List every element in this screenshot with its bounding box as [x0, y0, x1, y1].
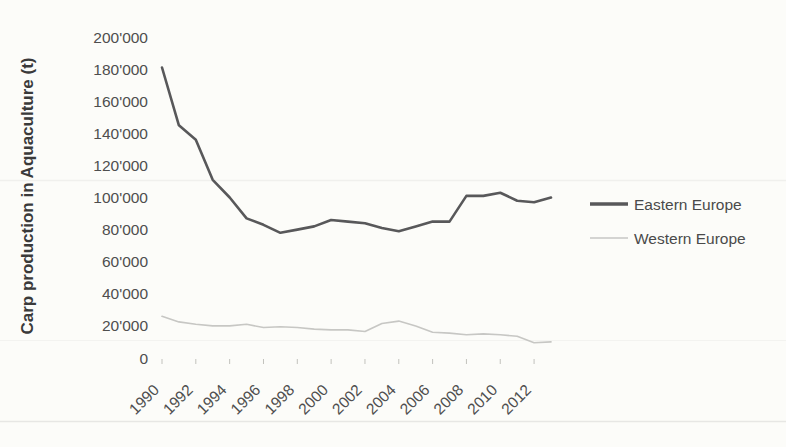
y-axis-tick-label: 40'000	[102, 285, 148, 302]
y-axis-tick-label: 80'000	[102, 221, 148, 238]
y-axis-title: Carp production in Aquaculture (t)	[18, 57, 37, 334]
y-axis-tick-label: 200'000	[93, 29, 148, 46]
y-axis-tick-label: 60'000	[102, 253, 148, 270]
legend: Eastern Europe Western Europe	[590, 196, 746, 247]
y-axis-tick-label: 0	[139, 350, 148, 367]
series-line-western-europe	[162, 316, 551, 343]
y-axis-tick-label: 180'000	[93, 61, 148, 78]
x-axis-tick-label: 1990	[126, 381, 163, 418]
legend-item-eastern-europe: Eastern Europe	[590, 196, 742, 213]
y-axis-tick-label: 100'000	[93, 189, 148, 206]
x-axis-tick-label: 2000	[295, 381, 332, 418]
x-axis-tick-label: 1996	[227, 381, 263, 417]
y-axis-tick-label: 20'000	[102, 317, 148, 334]
series-line-eastern-europe	[162, 68, 551, 233]
x-axis-tick-label: 2002	[329, 381, 365, 417]
x-axis-tick-label: 1992	[160, 381, 196, 417]
x-axis-tick-label: 2008	[430, 381, 466, 417]
y-axis-tick-label: 120'000	[93, 157, 148, 174]
y-axis-tick-label: 160'000	[93, 93, 148, 110]
x-axis-tick-label: 2004	[362, 381, 399, 418]
carp-production-chart: 020'00040'00060'00080'000100'000120'0001…	[0, 0, 786, 447]
legend-item-western-europe: Western Europe	[590, 230, 746, 247]
chart-page: 020'00040'00060'00080'000100'000120'0001…	[0, 0, 786, 447]
x-axis-tick-label: 1998	[261, 381, 297, 417]
x-axis: 1990199219941996199820002002200420062008…	[126, 381, 534, 418]
legend-label-western-europe: Western Europe	[634, 230, 746, 247]
x-axis-tick-label: 2012	[498, 381, 534, 417]
x-axis-tick-label: 1994	[193, 381, 230, 418]
x-axis-ticks	[162, 359, 534, 364]
x-axis-tick-label: 2006	[396, 381, 432, 417]
y-axis: 020'00040'00060'00080'000100'000120'0001…	[93, 29, 148, 367]
y-axis-tick-label: 140'000	[93, 125, 148, 142]
legend-label-eastern-europe: Eastern Europe	[634, 196, 742, 213]
x-axis-tick-label: 2010	[464, 381, 501, 418]
plot-area	[162, 68, 551, 343]
